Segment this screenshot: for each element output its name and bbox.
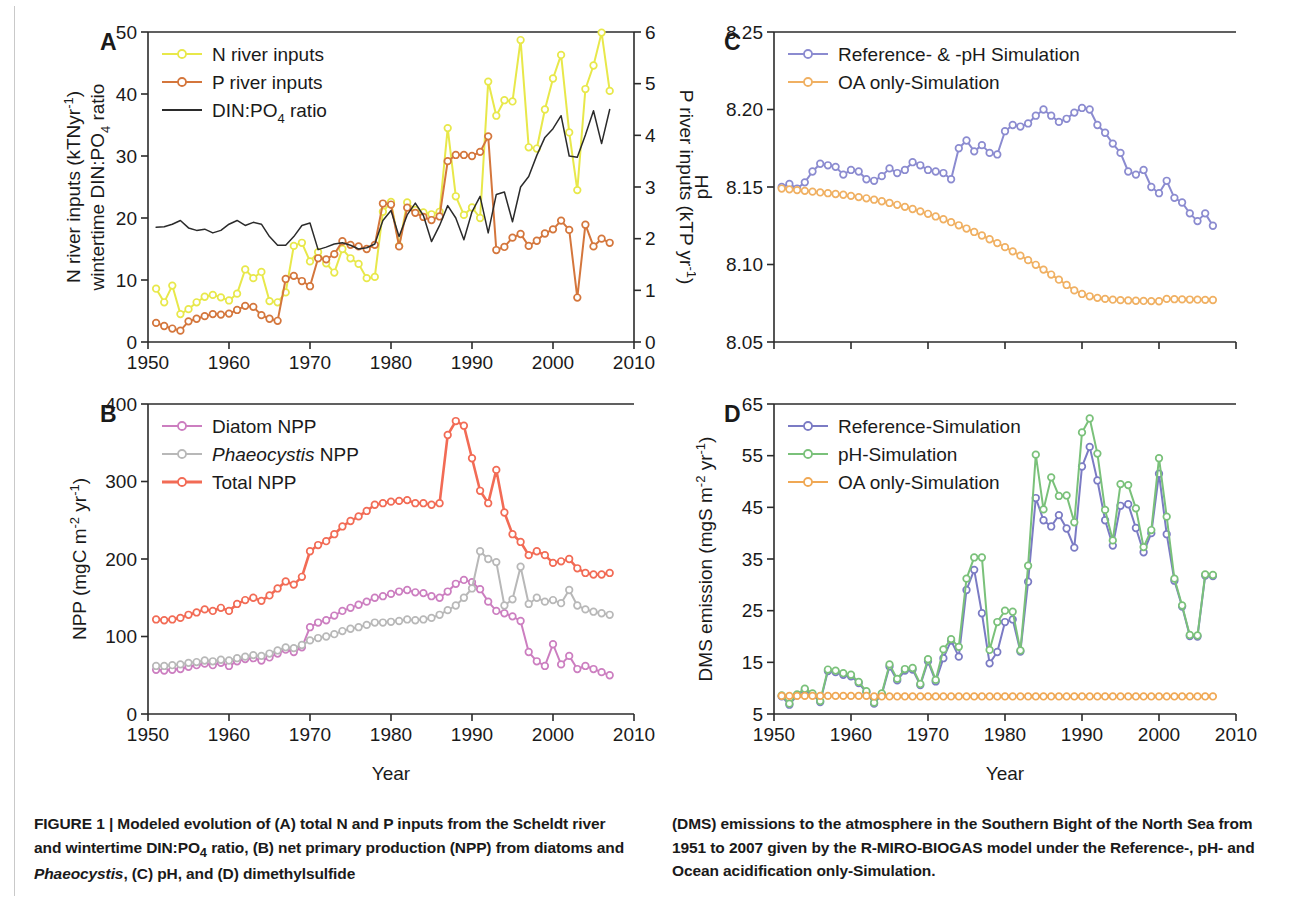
data-point — [917, 162, 924, 169]
data-point — [1194, 296, 1201, 303]
y-tick-label: 0 — [126, 332, 137, 353]
data-point — [396, 243, 403, 250]
data-point — [1025, 257, 1032, 264]
data-point — [461, 212, 468, 219]
data-point — [956, 693, 963, 700]
data-point — [1017, 252, 1024, 259]
y-tick-label: 0 — [126, 704, 137, 725]
legend: Reference-SimulationpH-SimulationOA only… — [788, 416, 1021, 493]
data-point — [1125, 693, 1132, 700]
data-point — [979, 142, 986, 149]
data-point — [925, 656, 932, 663]
data-point — [436, 594, 443, 601]
data-point — [1040, 266, 1047, 273]
data-point — [1140, 693, 1147, 700]
data-point — [574, 294, 581, 301]
data-point — [886, 693, 893, 700]
data-point — [786, 700, 793, 707]
y-tick-label: 100 — [105, 626, 137, 647]
data-point — [242, 653, 249, 660]
data-point — [1156, 455, 1163, 462]
data-point — [339, 628, 346, 635]
data-point — [266, 298, 273, 305]
panel-b-chart: 0100200300400195019601970198019902000201… — [36, 382, 696, 794]
data-point — [550, 641, 557, 648]
data-point — [1048, 271, 1055, 278]
data-point — [453, 418, 460, 425]
data-point — [1125, 501, 1132, 508]
data-point — [925, 693, 932, 700]
data-point — [1009, 693, 1016, 700]
data-point — [825, 666, 832, 673]
data-point — [979, 554, 986, 561]
data-point — [1110, 537, 1117, 544]
panel-d-dms: 5152535455565195019601970198019902000201… — [672, 382, 1284, 794]
data-point — [1140, 544, 1147, 551]
data-point — [436, 500, 443, 507]
x-tick-label: 2000 — [1138, 724, 1180, 745]
legend-label: OA only-Simulation — [838, 72, 1000, 93]
data-point — [485, 500, 492, 507]
data-point — [501, 610, 508, 617]
data-point — [1148, 184, 1155, 191]
data-point — [917, 681, 924, 688]
data-point — [558, 558, 565, 565]
y-tick-label: 40 — [116, 84, 137, 105]
data-point — [542, 552, 549, 559]
data-point — [444, 125, 451, 132]
y-tick-label: 65 — [742, 394, 763, 415]
data-point — [1048, 523, 1055, 530]
data-point — [994, 649, 1001, 656]
data-point — [971, 567, 978, 574]
data-point — [493, 467, 500, 474]
data-point — [1179, 199, 1186, 206]
data-point — [1025, 120, 1032, 127]
series-din-po4-ratio — [156, 110, 610, 250]
data-point — [566, 227, 573, 234]
data-point — [1148, 693, 1155, 700]
data-point — [323, 256, 330, 263]
data-point — [380, 619, 387, 626]
data-point — [331, 251, 338, 258]
data-point — [582, 606, 589, 613]
legend-swatch-marker — [178, 478, 186, 486]
data-point — [525, 243, 532, 250]
data-point — [902, 167, 909, 174]
data-point — [218, 311, 225, 318]
data-point — [1063, 693, 1070, 700]
data-point — [534, 237, 541, 244]
data-point — [832, 164, 839, 171]
data-point — [193, 609, 200, 616]
legend-item: Diatom NPP — [162, 416, 317, 437]
data-point — [986, 150, 993, 157]
data-point — [574, 666, 581, 673]
data-point — [1210, 222, 1217, 229]
data-point — [886, 165, 893, 172]
y-tick-label: 35 — [742, 549, 763, 570]
data-point — [299, 642, 306, 649]
data-point — [218, 605, 225, 612]
data-point — [1125, 297, 1132, 304]
data-point — [1040, 506, 1047, 513]
data-point — [598, 29, 605, 36]
data-point — [242, 266, 249, 273]
data-point — [477, 149, 484, 156]
caption-left-column: FIGURE 1 | Modeled evolution of (A) tota… — [34, 812, 634, 886]
data-point — [1002, 693, 1009, 700]
data-point — [1187, 632, 1194, 639]
data-point — [994, 240, 1001, 247]
data-point — [1086, 444, 1093, 451]
data-point — [1110, 140, 1117, 147]
x-tick-label: 1950 — [127, 724, 169, 745]
y2-tick-label: 2 — [645, 228, 656, 249]
data-point — [201, 293, 208, 300]
legend-swatch-marker — [804, 422, 812, 430]
data-point — [840, 693, 847, 700]
data-point — [347, 255, 354, 262]
data-point — [485, 598, 492, 605]
data-point — [550, 75, 557, 82]
legend-label: Reference- & -pH Simulation — [838, 44, 1080, 65]
data-point — [778, 693, 785, 700]
data-point — [380, 593, 387, 600]
legend-label: N river inputs — [212, 44, 324, 65]
